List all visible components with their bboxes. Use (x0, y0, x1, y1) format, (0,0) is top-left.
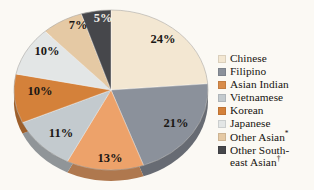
legend-item-label: Filipino (230, 65, 266, 78)
legend-item-label: Japanese (230, 117, 271, 130)
legend-item-label: Other South- east Asian† (230, 144, 289, 169)
legend-color-swatch (218, 120, 226, 128)
pie-chart-svg: Chinese 24%Filipino 21%Asian Indian 13%V… (0, 0, 218, 190)
pie-slice-value-label: 21% (164, 116, 189, 130)
legend-item[interactable]: Other Asian* (218, 131, 314, 144)
pie-chart-figure: Chinese 24%Filipino 21%Asian Indian 13%V… (0, 0, 314, 190)
pie-slice-value-label: 11% (49, 126, 73, 140)
pie-slice-value-label: 24% (151, 32, 176, 46)
legend-item-label: Other Asian* (230, 131, 289, 144)
chart-legend: ChineseFilipinoAsian IndianVietnameseKor… (218, 52, 314, 169)
legend-color-swatch (218, 133, 226, 141)
legend-item[interactable]: Vietnamese (218, 91, 314, 104)
legend-color-swatch (218, 146, 226, 154)
legend-color-swatch (218, 81, 226, 89)
legend-item[interactable]: Asian Indian (218, 78, 314, 91)
pie-slice-value-label: 5% (94, 11, 113, 25)
pie-slice-value-label: 10% (35, 44, 60, 58)
legend-footnote-marker: * (285, 129, 289, 138)
legend-color-swatch (218, 94, 226, 102)
legend-color-swatch (218, 107, 226, 115)
pie-slice[interactable]: Chinese 24% (111, 10, 208, 90)
legend-item-label: Korean (230, 104, 264, 117)
pie-slice-value-label: 10% (28, 84, 53, 98)
legend-item-label: Asian Indian (230, 78, 289, 91)
legend-item[interactable]: Filipino (218, 65, 314, 78)
legend-item-label: Vietnamese (230, 91, 283, 104)
legend-item-label: Chinese (230, 52, 267, 65)
pie-slice-value-label: 7% (69, 18, 88, 32)
pie-chart-plot-area: Chinese 24%Filipino 21%Asian Indian 13%V… (0, 0, 218, 190)
pie-slice-value-label: 13% (98, 151, 123, 165)
legend-color-swatch (218, 68, 226, 76)
legend-footnote-marker: † (277, 154, 281, 163)
legend-item[interactable]: Chinese (218, 52, 314, 65)
legend-item[interactable]: Korean (218, 104, 314, 117)
legend-color-swatch (218, 55, 226, 63)
legend-item[interactable]: Other South- east Asian† (218, 144, 314, 169)
legend-item[interactable]: Japanese (218, 117, 314, 130)
